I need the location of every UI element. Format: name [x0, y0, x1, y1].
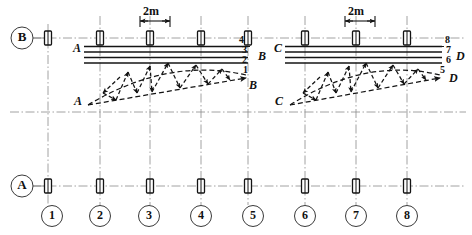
axis-bubble-label-4: 4: [192, 209, 210, 221]
axis-bubble-label-b: B: [13, 30, 31, 43]
right-purlin-number-5: 5: [440, 65, 445, 75]
left-bay-truss: [88, 70, 246, 105]
right-purlin-number-6: 6: [446, 55, 451, 65]
axis-bubble-label-7: 7: [347, 209, 365, 221]
axis-bubble-label-6: 6: [296, 209, 314, 221]
left-beam-end-label: B: [258, 50, 266, 62]
left-bay-truss-web: [103, 63, 230, 100]
right-beam-end-label: D: [456, 50, 465, 62]
axis-bubble-label-5: 5: [244, 209, 262, 221]
axis-bubble-label-a: A: [13, 178, 31, 191]
axis-bubble-label-8: 8: [398, 209, 416, 221]
axis-bubble-label-3: 3: [140, 209, 158, 221]
left-beam-start-label: A: [73, 42, 81, 54]
left-bay-purlin-band: [84, 47, 248, 64]
right-bay-truss-web: [303, 63, 426, 100]
axis-bubble-label-2: 2: [91, 209, 109, 221]
dimension-label-right: 2m: [348, 5, 364, 17]
horizontal-gridlines: [10, 38, 466, 186]
left-truss-start-label: A: [74, 95, 82, 107]
right-bay-purlin-band: [285, 47, 442, 64]
structural-plan-svg: [0, 0, 472, 235]
right-truss-end-label: D: [449, 72, 458, 84]
left-purlin-number-1: 1: [243, 65, 248, 75]
left-truss-end-label: B: [249, 79, 257, 91]
right-truss-start-label: C: [275, 95, 283, 107]
dimension-label-left: 2m: [143, 5, 159, 17]
right-bay-truss: [290, 70, 440, 105]
drawing-canvas: B A 1 2 3 4 5 6 7 8 2m 2m A B A B 4 3 2 …: [0, 0, 472, 235]
right-beam-start-label: C: [274, 42, 282, 54]
axis-bubble-label-1: 1: [43, 209, 61, 221]
